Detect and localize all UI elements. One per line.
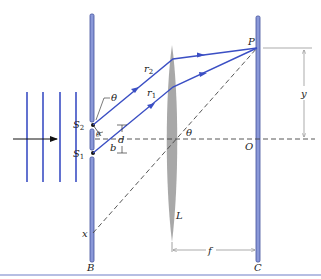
double-slit-diagram: S2 S1 r2 r1 θ θ θ b d x L P y O f B C xyxy=(0,0,321,279)
barrier-lower xyxy=(90,157,94,262)
label-theta-lens: θ xyxy=(186,127,192,138)
barrier-middle xyxy=(90,129,94,150)
ray-r2-arrow-2 xyxy=(197,53,205,58)
label-r1: r1 xyxy=(147,87,156,100)
label-L: L xyxy=(175,210,183,221)
label-P: P xyxy=(247,36,255,47)
label-f: f xyxy=(207,245,214,256)
label-theta-slit: θ xyxy=(111,92,117,103)
label-b: b xyxy=(110,142,116,153)
label-S2: S2 xyxy=(73,119,84,132)
label-d: d xyxy=(118,134,124,145)
wavefronts xyxy=(27,92,76,182)
label-B: B xyxy=(86,262,94,273)
label-r2: r2 xyxy=(144,63,153,76)
ray-r1-arrow-2 xyxy=(199,72,207,77)
label-S1: S1 xyxy=(73,148,84,161)
label-C: C xyxy=(254,262,262,273)
barrier-upper xyxy=(90,14,94,122)
label-x: x xyxy=(82,228,88,239)
label-O: O xyxy=(245,141,253,152)
label-y: y xyxy=(300,88,307,99)
barrier-B xyxy=(90,14,95,262)
